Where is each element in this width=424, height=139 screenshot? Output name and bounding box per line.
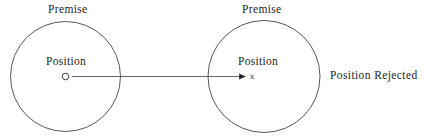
left-position-marker-icon <box>62 73 69 80</box>
right-position-marker-x-icon: x <box>250 72 254 81</box>
right-premise-label: Premise <box>242 4 282 16</box>
left-premise-label: Premise <box>48 4 88 16</box>
conclusion-label: Position Rejected <box>330 70 418 82</box>
diagram-canvas: Premise Position Premise Position x Posi… <box>0 0 424 139</box>
right-position-label: Position <box>238 56 278 68</box>
left-position-label: Position <box>46 56 86 68</box>
